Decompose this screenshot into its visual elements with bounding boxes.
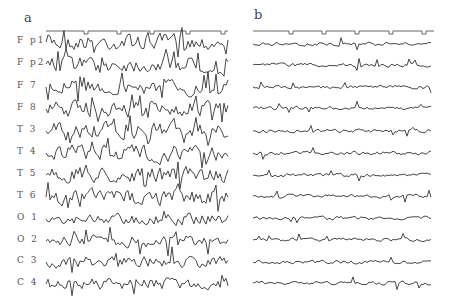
eeg-trace-a	[46, 28, 228, 58]
eeg-trace-b	[253, 148, 431, 160]
eeg-trace-b	[253, 216, 431, 223]
eeg-trace-a	[46, 138, 228, 168]
eeg-trace-a	[46, 275, 228, 295]
eeg-trace-a	[46, 247, 228, 273]
timing-marker-a	[46, 31, 228, 34]
eeg-trace-b	[253, 190, 431, 202]
eeg-trace-a	[46, 227, 228, 256]
eeg-trace-b	[253, 59, 431, 71]
eeg-trace-b	[253, 126, 431, 137]
eeg-trace-a	[46, 72, 228, 102]
eeg-trace-b	[253, 234, 431, 242]
eeg-trace-a	[46, 183, 228, 212]
eeg-traces	[0, 0, 453, 308]
eeg-trace-b	[253, 38, 431, 50]
eeg-trace-a	[46, 162, 228, 189]
eeg-trace-a	[46, 49, 228, 76]
eeg-trace-b	[253, 257, 431, 264]
eeg-trace-a	[46, 95, 228, 122]
eeg-trace-b	[253, 101, 431, 112]
eeg-trace-b	[253, 170, 431, 181]
timing-marker-b	[253, 31, 434, 34]
eeg-trace-b	[253, 82, 431, 93]
eeg-trace-a	[46, 211, 228, 225]
eeg-trace-a	[46, 116, 228, 146]
eeg-trace-b	[253, 277, 431, 290]
